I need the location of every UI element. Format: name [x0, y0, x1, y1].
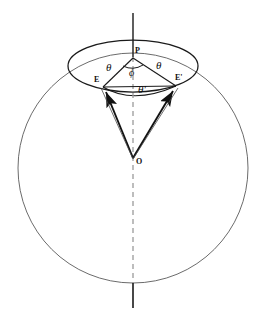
- vector-O-to-E: [106, 92, 133, 158]
- label-angle-theta-prime: θ': [138, 84, 146, 95]
- geometry-figure: P E E' O θ θ ϕ θ': [0, 0, 267, 316]
- label-angle-theta-right: θ: [156, 60, 161, 71]
- cone-edge-right: [133, 88, 178, 159]
- diagram-canvas: [0, 0, 267, 316]
- segment-P-Eprime: [133, 58, 176, 86]
- label-point-E-prime: E': [175, 74, 183, 82]
- label-angle-phi: ϕ: [129, 68, 134, 78]
- label-point-O: O: [136, 158, 142, 166]
- vector-O-to-Eprime: [133, 91, 173, 158]
- cone-edge-left: [101, 88, 133, 159]
- label-point-P: P: [135, 47, 140, 55]
- label-angle-theta-left: θ: [106, 62, 111, 73]
- label-point-E: E: [94, 76, 99, 84]
